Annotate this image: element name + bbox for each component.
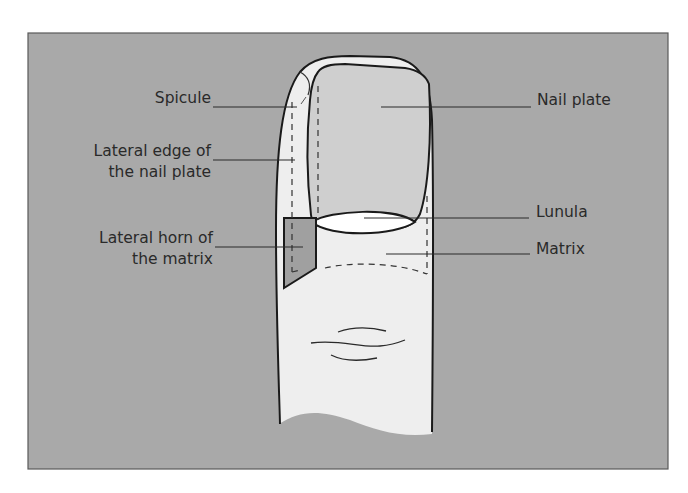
label-lateral-horn-line2: the matrix xyxy=(132,250,213,269)
label-lateral-edge-line1: Lateral edge of xyxy=(94,142,211,161)
label-lateral-horn-line1: Lateral horn of xyxy=(99,229,213,248)
label-nail-plate: Nail plate xyxy=(537,91,611,110)
label-spicule: Spicule xyxy=(155,89,211,108)
label-lateral-edge-line2: the nail plate xyxy=(109,163,211,182)
nail-plate-shape xyxy=(307,64,430,228)
label-matrix: Matrix xyxy=(536,240,585,259)
nail-anatomy-diagram: Spicule Lateral edge of the nail plate L… xyxy=(0,0,688,493)
label-lunula: Lunula xyxy=(536,203,588,222)
